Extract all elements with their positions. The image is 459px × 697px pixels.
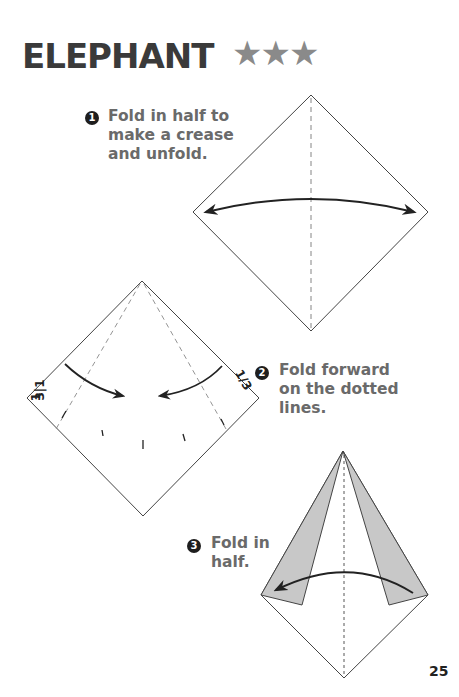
paper-square: [193, 95, 428, 331]
paper-square: [27, 281, 259, 516]
step-1-diagram: [193, 95, 428, 331]
fraction-left-label: 3|1: [33, 379, 47, 400]
diagrams-canvas: 1 3|1 1/3: [0, 0, 459, 697]
step-2-diagram: 1 3|1 1/3: [23, 281, 259, 516]
step-3-diagram: [261, 451, 428, 678]
